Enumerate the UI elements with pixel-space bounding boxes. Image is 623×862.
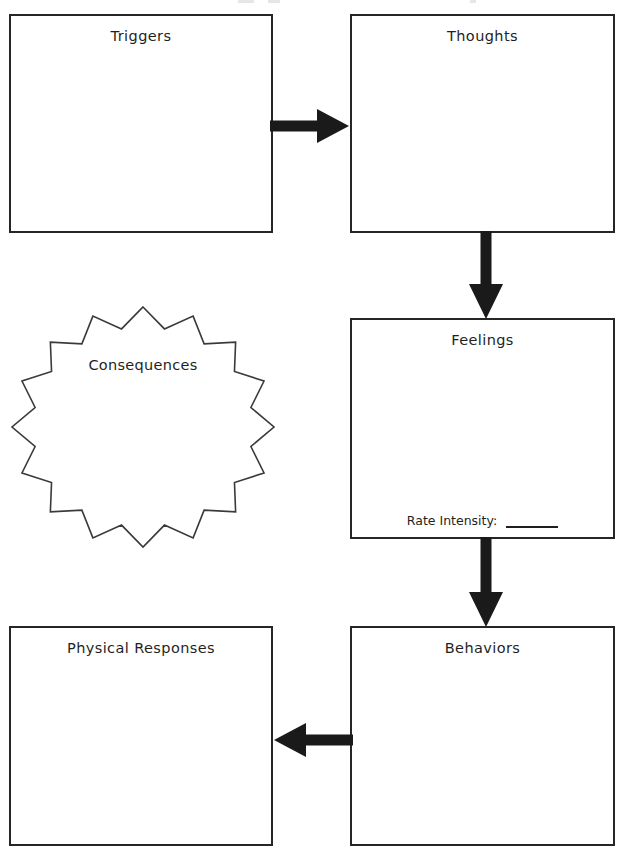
rate-intensity-row: Rate Intensity: <box>352 513 613 528</box>
arrow-triggers-to-thoughts-icon <box>270 104 350 148</box>
clipped-heading-mark <box>268 0 280 3</box>
clipped-heading-mark <box>470 0 476 3</box>
triggers-box[interactable]: Triggers <box>9 14 273 233</box>
rate-intensity-label: Rate Intensity: <box>407 513 497 528</box>
physical-responses-box[interactable]: Physical Responses <box>9 626 273 846</box>
arrow-thoughts-to-feelings-icon <box>464 231 508 320</box>
behaviors-box[interactable]: Behaviors <box>350 626 615 846</box>
triggers-label: Triggers <box>11 28 271 44</box>
worksheet-canvas: Triggers Thoughts Feelings Rate Intensit… <box>0 0 623 862</box>
physical-responses-label: Physical Responses <box>11 640 271 656</box>
clipped-heading-mark <box>238 0 254 3</box>
feelings-label: Feelings <box>352 332 613 348</box>
starburst-shape <box>12 307 274 547</box>
arrow-feelings-to-behaviors-icon <box>464 537 508 628</box>
thoughts-label: Thoughts <box>352 28 613 44</box>
arrow-behaviors-to-physical-icon <box>273 718 353 762</box>
feelings-box[interactable]: Feelings Rate Intensity: <box>350 318 615 539</box>
consequences-starburst[interactable]: Consequences <box>10 305 276 549</box>
rate-intensity-input[interactable] <box>506 514 558 528</box>
behaviors-label: Behaviors <box>352 640 613 656</box>
consequences-label: Consequences <box>10 357 276 373</box>
thoughts-box[interactable]: Thoughts <box>350 14 615 233</box>
